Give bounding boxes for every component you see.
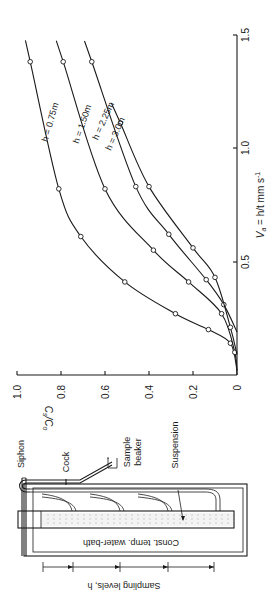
beaker-label: beaker [133,438,143,466]
particle-dot [150,515,151,516]
sampling-tube [90,497,124,511]
y-axis-title: Cs/Co [42,406,54,431]
x-axis-title: Va = h/t mm s-1 [254,172,267,239]
particle-dot [210,523,211,524]
data-curve [111,103,237,355]
data-point-marker [204,277,209,282]
suspension-label: Suspension [170,421,180,468]
particle-dot [216,523,217,524]
data-point-marker [191,246,196,251]
particle-dot [84,519,85,520]
data-point-marker [167,232,172,237]
particle-dot [180,515,181,516]
particle-dot [186,515,187,516]
particle-dot [210,515,211,516]
data-point-marker [206,327,211,332]
particle-dot [54,519,55,520]
particle-dot [114,519,115,520]
particle-dot [216,515,217,516]
y-tick-label: 0.8 [56,385,67,399]
particle-dot [222,523,223,524]
particle-dot [126,515,127,516]
particle-dot [96,523,97,524]
particle-dot [84,515,85,516]
particle-dot [126,519,127,520]
data-point-marker [79,234,84,239]
water-bath-label: Const. temp. water-bath [83,538,179,548]
dimension-arrow [68,565,73,569]
particle-dot [156,523,157,524]
particle-dot [66,523,67,524]
particle-dot [156,515,157,516]
particle-dot [174,519,175,520]
particle-dot [132,523,133,524]
particle-dot [138,519,139,520]
sampling-apparatus-diagram: Siphon Cock Sample beaker Suspension Con… [16,421,247,591]
particle-dot [234,523,235,524]
x-tick-label: 1.0 [240,141,251,155]
y-tick-label: 0.6 [100,385,111,399]
particle-dot [72,523,73,524]
particle-dot [144,519,145,520]
particle-dot [72,515,73,516]
particle-dot [234,519,235,520]
particle-dot [54,515,55,516]
particle-dot [78,519,79,520]
curve-group [25,40,237,375]
particle-dot [150,523,151,524]
y-tick-label: 1.0 [12,385,23,399]
particle-dot [204,523,205,524]
particle-dot [90,515,91,516]
particle-dot [168,515,169,516]
particle-dot [228,515,229,516]
particle-dot [174,515,175,516]
particle-dot [216,519,217,520]
data-point-marker [28,59,33,64]
particle-dot [132,519,133,520]
data-point-marker [103,187,108,192]
particle-dot [66,519,67,520]
particle-dot [60,515,61,516]
particle-dot [228,523,229,524]
data-point-marker [186,280,191,285]
curve-label: h = 1.50m [71,103,94,144]
particle-dot [192,519,193,520]
particle-dot [174,523,175,524]
particle-dot [150,519,151,520]
particle-dot [78,515,79,516]
particle-dot [198,523,199,524]
particle-dot [48,515,49,516]
particle-dot [60,519,61,520]
particle-dot [84,523,85,524]
x-tick-label: 0.5 [240,255,251,269]
particle-dot [204,519,205,520]
particle-dot [138,523,139,524]
particle-dot [222,515,223,516]
y-tick-label: 0 [232,385,243,391]
data-point-marker [90,59,95,64]
dimension-arrow [115,565,120,569]
y-tick-label: 0.4 [144,385,155,399]
data-point-marker [61,59,66,64]
particle-dot [138,515,139,516]
particle-dot [120,523,121,524]
siphon-label: Siphon [16,440,26,468]
sampling-tube [138,497,172,511]
data-point-marker [228,325,233,330]
particle-dot [120,519,121,520]
particle-dot [192,523,193,524]
data-curve [85,41,238,332]
particle-dot [96,515,97,516]
particle-dot [222,519,223,520]
data-point-marker [219,311,224,316]
concentration-chart: 1.5 1.0 0.5 1.0 0.8 0.6 0.4 0.2 0 Va = h… [12,28,267,431]
data-curve [25,40,237,370]
particle-dot [54,523,55,524]
particle-dot [48,519,49,520]
data-point-marker [173,311,178,316]
particle-dot [204,515,205,516]
particle-dot [66,515,67,516]
particle-dot [48,523,49,524]
particle-dot [114,515,115,516]
particle-dot [198,519,199,520]
